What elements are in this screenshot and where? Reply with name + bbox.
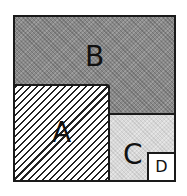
region-a: A — [15, 84, 110, 180]
label-d: D — [155, 159, 167, 175]
region-d: D — [147, 152, 174, 180]
label-c: C — [123, 141, 143, 169]
label-a: A — [52, 119, 71, 147]
label-b: B — [85, 43, 104, 71]
outer-square: B A C D — [13, 15, 176, 182]
